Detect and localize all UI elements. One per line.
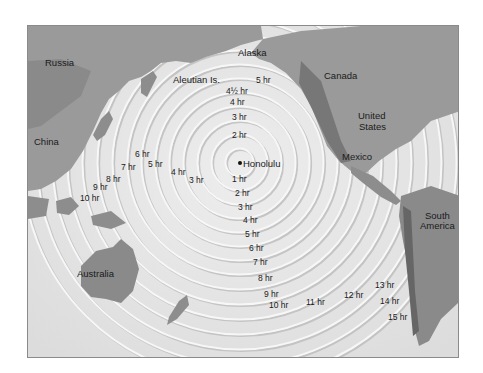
label-united: United xyxy=(358,111,385,121)
time-label: 7 hr xyxy=(253,258,268,267)
time-label: 3 hr xyxy=(232,113,247,122)
time-label: 2 hr xyxy=(232,131,247,140)
label-honolulu: Honolulu xyxy=(243,159,281,169)
label-canada: Canada xyxy=(324,71,357,81)
time-label: 2 hr xyxy=(235,189,250,198)
time-label: 4½ hr xyxy=(226,87,248,96)
time-label: 10 hr xyxy=(80,194,99,203)
label-mexico: Mexico xyxy=(342,152,372,162)
time-label: 4 hr xyxy=(171,168,186,177)
time-label: 13 hr xyxy=(375,281,394,290)
label-russia: Russia xyxy=(45,58,74,68)
time-label: 3 hr xyxy=(189,176,204,185)
label-states: States xyxy=(359,122,386,132)
time-label: 4 hr xyxy=(243,216,258,225)
label-aleutian-islands: Aleutian Is. xyxy=(173,75,220,85)
time-label: 4 hr xyxy=(230,98,245,107)
time-label: 6 hr xyxy=(135,150,150,159)
time-label: 1 hr xyxy=(232,175,247,184)
time-label: 8 hr xyxy=(106,175,121,184)
time-label: 5 hr xyxy=(148,160,163,169)
tsunami-map: Russia Alaska Aleutian Is. Canada United… xyxy=(27,25,459,358)
time-label: 5 hr xyxy=(245,230,260,239)
time-label: 9 hr xyxy=(93,183,108,192)
label-australia: Australia xyxy=(77,269,114,279)
time-label: 15 hr xyxy=(388,313,407,322)
time-label: 6 hr xyxy=(249,244,264,253)
time-label: 10 hr xyxy=(269,301,288,310)
time-label: 8 hr xyxy=(258,274,273,283)
label-america: America xyxy=(420,221,455,231)
time-label: 12 hr xyxy=(344,291,363,300)
honolulu-marker xyxy=(238,161,242,165)
time-label: 11 hr xyxy=(306,298,325,307)
time-label: 14 hr xyxy=(380,297,399,306)
label-alaska: Alaska xyxy=(238,48,267,58)
time-label: 9 hr xyxy=(264,290,279,299)
label-china: China xyxy=(34,137,59,147)
time-label: 5 hr xyxy=(256,76,271,85)
time-label: 3 hr xyxy=(238,203,253,212)
time-label: 7 hr xyxy=(121,163,136,172)
